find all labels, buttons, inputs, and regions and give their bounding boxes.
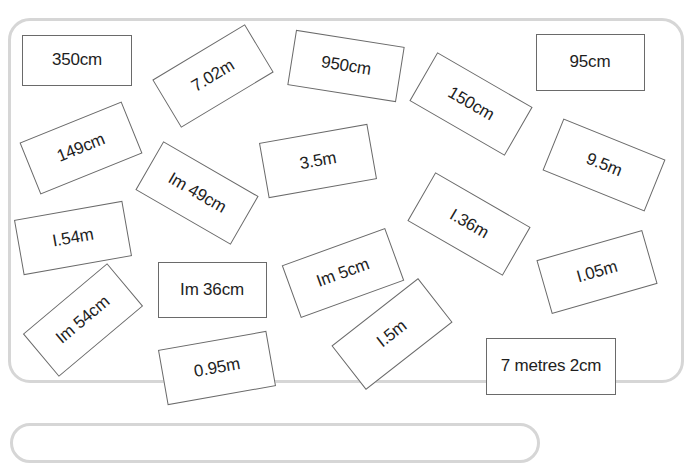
measurement-card[interactable]: 350cm [22, 35, 132, 86]
answer-panel [10, 423, 540, 463]
measurement-card[interactable]: Im 36cm [158, 262, 267, 318]
measurement-card[interactable]: 95cm [536, 34, 645, 91]
measurement-card[interactable]: 7 metres 2cm [486, 338, 616, 395]
